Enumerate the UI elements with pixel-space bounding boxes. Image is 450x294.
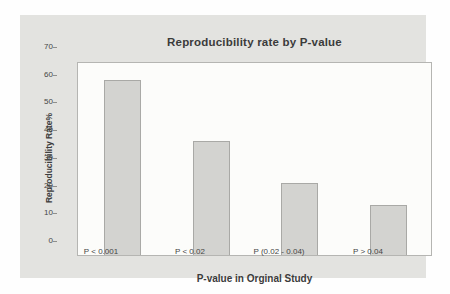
y-tick-label: 10 [23, 209, 53, 217]
x-category-label: P < 0.001 [56, 247, 146, 256]
y-tick-mark [53, 241, 57, 242]
y-tick-label: 50 [23, 98, 53, 106]
y-tick-label: 60 [23, 71, 53, 79]
y-tick-label: 20 [23, 182, 53, 190]
x-axis-title: P-value in Orginal Study [77, 273, 432, 284]
plot-area [77, 62, 432, 256]
x-category-label: P (0.02 - 0.04) [234, 247, 324, 256]
y-tick-label: 70 [23, 43, 53, 51]
y-tick-mark [53, 102, 57, 103]
x-category-label: P < 0.02 [145, 247, 235, 256]
y-tick-mark [53, 213, 57, 214]
y-tick-mark [53, 158, 57, 159]
x-category-label: P > 0.04 [323, 247, 413, 256]
y-tick-mark [53, 186, 57, 187]
y-tick-mark [53, 75, 57, 76]
chart-panel: Reproducibility rate by P-value Reproduc… [20, 15, 426, 278]
bar-P < 0.001 [104, 80, 141, 255]
y-tick-label: 0 [23, 237, 53, 245]
y-tick-mark [53, 47, 57, 48]
y-tick-label: 40 [23, 126, 53, 134]
chart-title: Reproducibility rate by P-value [77, 36, 432, 48]
chart-page: Reproducibility rate by P-value Reproduc… [0, 0, 450, 294]
y-tick-mark [53, 130, 57, 131]
bar-P (0.02 - 0.04) [281, 183, 318, 255]
bar-P < 0.02 [193, 141, 230, 255]
y-tick-label: 30 [23, 154, 53, 162]
